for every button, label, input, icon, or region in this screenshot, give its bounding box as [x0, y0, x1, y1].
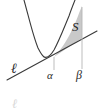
partial-glyph-ell: ℓ — [12, 97, 17, 110]
math-figure: S ℓ α β ℓ — [0, 0, 100, 111]
region-label-s: S — [72, 20, 79, 33]
axis-label-beta: β — [76, 69, 82, 81]
axis-label-alpha: α — [47, 70, 53, 81]
parabola-curve — [24, 0, 75, 57]
figure-canvas — [0, 0, 100, 111]
line-label-ell: ℓ — [11, 62, 17, 76]
